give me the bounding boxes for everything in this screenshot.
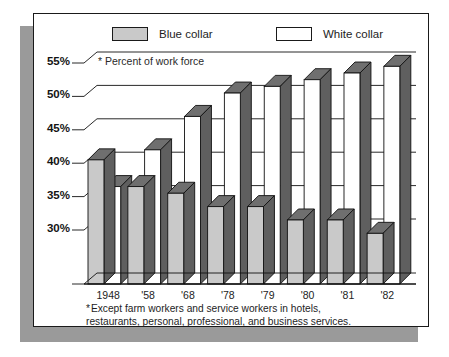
footnote-star: *	[86, 303, 90, 314]
chart-footnote: *Except farm workers and service workers…	[86, 302, 416, 328]
footnote-line-1: Except farm workers and service workers …	[91, 303, 321, 314]
chart-card: Blue collar White collar * Percent of wo…	[33, 13, 429, 327]
footnote-line-2: restaurants, personal, professional, and…	[86, 316, 351, 327]
x-axis-tick-label: '81	[341, 289, 355, 301]
x-axis-tick-label: 1948	[97, 289, 120, 301]
chart-figure: Blue collar White collar * Percent of wo…	[0, 0, 449, 357]
x-axis-tick-label: '68	[181, 289, 195, 301]
x-axis-tick-label: '82	[380, 289, 394, 301]
x-axis-tick-label: '80	[301, 289, 315, 301]
x-axis-tick-label: '78	[221, 289, 235, 301]
x-axis-tick-label: '79	[261, 289, 275, 301]
x-axis-tick-label: '58	[141, 289, 155, 301]
x-axis-labels: 1948'58'68'78'79'80'81'82	[34, 14, 430, 328]
